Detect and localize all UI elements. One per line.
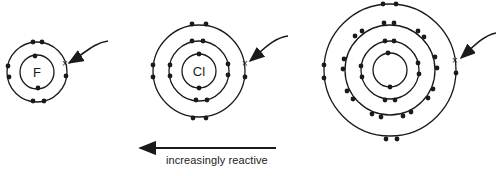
electrons-bromine — [322, 2, 459, 142]
halogen-diagram: F × Cl × — [0, 0, 504, 176]
pointer-arrow-icon — [250, 36, 288, 61]
element-symbol-f: F — [33, 65, 41, 80]
element-symbol-cl: Cl — [193, 64, 205, 79]
pointer-arrow-icon — [69, 41, 108, 63]
reactivity-label: increasingly reactive — [166, 154, 268, 166]
pointer-arrow-icon — [461, 33, 496, 58]
cross-marker-icon: × — [62, 58, 68, 69]
cross-marker-icon: × — [452, 55, 458, 66]
cross-marker-icon: × — [242, 58, 248, 69]
